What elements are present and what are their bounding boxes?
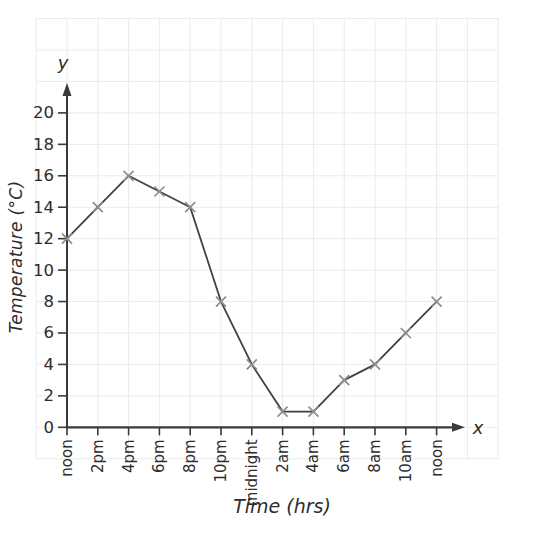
svg-text:20: 20 bbox=[33, 103, 54, 122]
svg-text:14: 14 bbox=[33, 198, 54, 217]
svg-text:6: 6 bbox=[44, 323, 55, 342]
svg-text:6pm: 6pm bbox=[150, 439, 168, 473]
svg-text:2am: 2am bbox=[274, 439, 292, 472]
svg-text:2: 2 bbox=[44, 386, 55, 405]
svg-text:10: 10 bbox=[33, 261, 54, 280]
y-axis-arrow-label: y bbox=[58, 52, 69, 73]
svg-text:noon: noon bbox=[58, 439, 76, 476]
svg-text:8: 8 bbox=[44, 292, 55, 311]
svg-text:noon: noon bbox=[428, 439, 446, 476]
svg-text:8am: 8am bbox=[366, 439, 384, 472]
x-axis-title: Time (hrs) bbox=[233, 495, 331, 517]
svg-text:4pm: 4pm bbox=[120, 439, 138, 473]
svg-text:4: 4 bbox=[44, 355, 55, 374]
y-axis-title: Temperature (°C) bbox=[6, 181, 26, 334]
svg-text:10am: 10am bbox=[397, 439, 415, 482]
svg-text:10pm: 10pm bbox=[212, 439, 230, 482]
svg-text:6am: 6am bbox=[335, 439, 353, 472]
svg-text:16: 16 bbox=[33, 166, 54, 185]
svg-text:12: 12 bbox=[33, 229, 54, 248]
svg-text:4am: 4am bbox=[304, 439, 322, 472]
svg-text:0: 0 bbox=[44, 418, 55, 437]
svg-text:18: 18 bbox=[33, 135, 54, 154]
x-axis-arrow-label: x bbox=[473, 417, 484, 438]
svg-text:8pm: 8pm bbox=[181, 439, 199, 473]
temperature-chart-figure: 02468101214161820noon2pm4pm6pm8pm10pmmid… bbox=[0, 0, 533, 537]
svg-text:2pm: 2pm bbox=[89, 439, 107, 473]
temperature-line-chart: 02468101214161820noon2pm4pm6pm8pm10pmmid… bbox=[0, 0, 533, 537]
